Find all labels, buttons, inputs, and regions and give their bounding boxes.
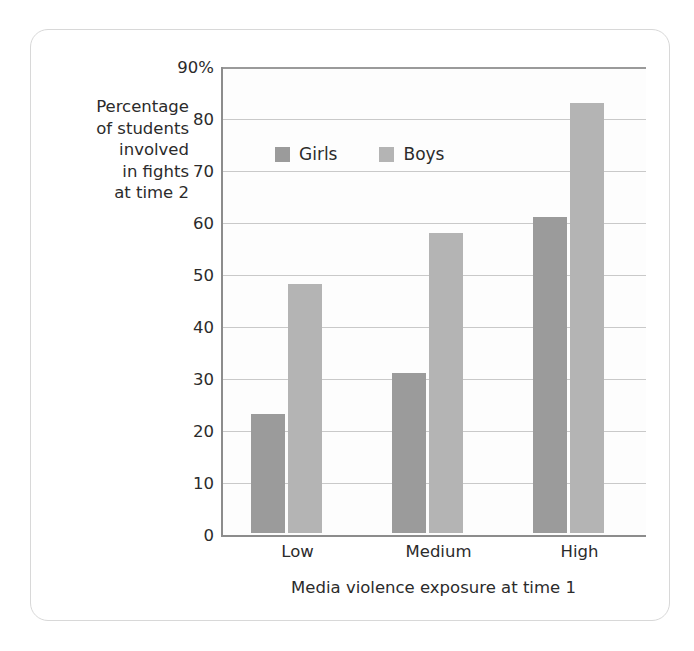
bar-group-high — [507, 67, 648, 533]
bar-group-low — [225, 67, 366, 533]
y-tick-label: 90% — [177, 58, 214, 77]
legend-item-boys: Boys — [379, 144, 444, 164]
y-tick-label: 30 — [193, 370, 214, 389]
legend-swatch-girls-icon — [275, 147, 290, 162]
y-axis-title-line-3: involved — [37, 139, 189, 161]
bar-boys-medium — [429, 233, 463, 533]
y-tick-label: 60 — [193, 214, 214, 233]
x-axis-title: Media violence exposure at time 1 — [221, 578, 646, 597]
y-tick-label: 50 — [193, 266, 214, 285]
plot-wrap: 90%80706050403020100 — [221, 67, 646, 537]
legend-label-boys: Boys — [403, 144, 444, 164]
figure-card: Percentage of students involved in fight… — [30, 29, 670, 621]
bar-girls-low — [251, 414, 285, 533]
legend-swatch-boys-icon — [379, 147, 394, 162]
legend-item-girls: Girls — [275, 144, 337, 164]
bars-layer — [225, 67, 646, 533]
y-tick-label: 40 — [193, 318, 214, 337]
x-tick-label-medium: Medium — [406, 542, 472, 561]
y-axis-title: Percentage of students involved in fight… — [37, 96, 189, 204]
plot-area: 90%80706050403020100 — [221, 67, 646, 537]
chart-legend: Girls Boys — [275, 144, 444, 164]
y-axis-title-line-4: in fights — [37, 161, 189, 183]
bar-boys-low — [288, 284, 322, 533]
bar-boys-high — [570, 103, 604, 533]
y-tick-label: 20 — [193, 422, 214, 441]
bar-girls-high — [533, 217, 567, 533]
bar-girls-medium — [392, 373, 426, 534]
bar-group-medium — [366, 67, 507, 533]
y-tick-label: 80 — [193, 110, 214, 129]
y-axis-title-line-5: at time 2 — [37, 182, 189, 204]
y-axis-title-line-2: of students — [37, 118, 189, 140]
x-tick-labels: LowMediumHigh — [221, 542, 646, 568]
x-tick-label-low: Low — [281, 542, 314, 561]
y-tick-label: 70 — [193, 162, 214, 181]
x-tick-label-high: High — [561, 542, 599, 561]
y-tick-label: 10 — [193, 474, 214, 493]
y-axis-title-line-1: Percentage — [37, 96, 189, 118]
legend-label-girls: Girls — [299, 144, 337, 164]
y-tick-label: 0 — [204, 526, 215, 545]
